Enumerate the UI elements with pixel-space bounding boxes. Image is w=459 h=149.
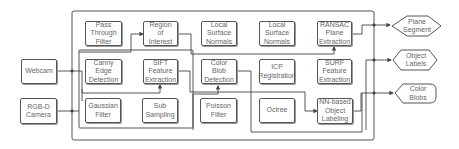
octree-node: Octree xyxy=(259,98,295,123)
sub-sampling-node: Sub Sampling xyxy=(142,98,178,123)
edge-webcam-bus xyxy=(57,71,82,101)
object-labels-label: Object Labels xyxy=(398,50,434,70)
edge-ransac-plane xyxy=(352,25,390,34)
poisson-filter-node: Poisson Filter xyxy=(200,98,237,123)
pass-through-filter-node: Pass Through Filter xyxy=(85,21,122,46)
plane-segment-label: Plane Segment xyxy=(398,16,436,36)
surf-feature-extraction-node: SURF Feature Extraction xyxy=(317,59,352,84)
webcam-node: Webcam xyxy=(21,59,57,84)
nn-object-labeling-node: NN-based Object Labeling xyxy=(317,98,353,124)
local-surface-normals-node-2: Local Surface Normals xyxy=(259,21,295,46)
edge-sift-nn xyxy=(178,71,317,111)
edge-to-object-labels xyxy=(366,60,391,130)
canny-edge-detection-node: Canny Edge Detection xyxy=(85,59,122,84)
ransac-plane-extraction-node: RANSAC Plane Extraction xyxy=(317,21,352,46)
local-surface-normals-node-1: Local Surface Normals xyxy=(201,21,237,46)
color-blob-detection-node: Color Blob Detection xyxy=(201,59,237,84)
sift-feature-extraction-node: SIFT Feature Extraction xyxy=(143,59,178,84)
gaussian-filter-node: Gaussian Filter xyxy=(85,98,121,123)
icp-registration-node: ICP Registration xyxy=(259,59,295,84)
edge-to-sift xyxy=(82,85,160,93)
edge-nn-colorblobs xyxy=(353,93,393,111)
rgbd-camera-node: RGB-D Camera xyxy=(20,98,57,124)
region-of-interest-node: Region of Interest xyxy=(143,21,178,46)
color-blobs-label: Color Blobs xyxy=(400,84,436,103)
